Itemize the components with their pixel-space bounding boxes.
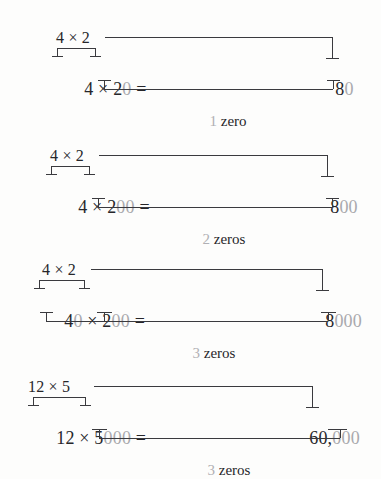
pair-bracket-left-tick-3 xyxy=(39,280,40,288)
caption-word-2: zeros xyxy=(214,231,246,247)
pair-bracket-base-2 xyxy=(51,166,89,167)
zeros-bracket-right-tick-1 xyxy=(333,80,334,89)
zeros-bracket-right-foot-1 xyxy=(327,80,340,81)
caption-1: 1 zero xyxy=(187,99,247,144)
zeros-bracket-base-1 xyxy=(104,89,333,90)
top-expression-3: 4 × 2 xyxy=(42,262,76,278)
top-connector-foot-3 xyxy=(316,290,329,291)
caption-2: 2 zeros xyxy=(180,217,245,262)
caption-count-1: 1 xyxy=(210,113,218,129)
top-connector-foot-2 xyxy=(321,176,334,177)
zeros-bracket-left-tick-3 xyxy=(46,312,47,321)
pair-bracket-right-tick-3 xyxy=(84,280,85,288)
pair-bracket-left-foot-2 xyxy=(46,174,57,175)
caption-count-4: 3 xyxy=(208,462,216,478)
top-connector-drop-2 xyxy=(327,155,328,176)
top-connector-drop-3 xyxy=(322,269,323,290)
zeros-bracket-left-tick-4 xyxy=(99,429,100,438)
zeros-bracket-right-tick-3 xyxy=(328,312,329,321)
zeros-bracket-right-foot-3 xyxy=(321,312,336,313)
caption-4: 3 zeros xyxy=(185,448,250,479)
pair-bracket-base-1 xyxy=(57,48,95,49)
zeros-bracket-right-foot-2 xyxy=(326,198,339,199)
zeros-bracket-right-foot-4 xyxy=(328,429,347,430)
main-lead-4: 12 × 5 xyxy=(56,428,103,448)
zeros-bracket-mid-tick-3 xyxy=(104,312,105,321)
caption-count-2: 2 xyxy=(203,231,211,247)
top-connector-line-4 xyxy=(94,386,312,387)
zeros-bracket-left-foot-1 xyxy=(98,80,111,81)
top-expression-1: 4 × 2 xyxy=(56,30,90,46)
pair-bracket-right-foot-4 xyxy=(80,405,91,406)
zeros-bracket-base-2 xyxy=(98,207,332,208)
pair-bracket-right-tick-4 xyxy=(85,397,86,405)
pair-bracket-left-foot-3 xyxy=(34,288,45,289)
caption-word-3: zeros xyxy=(204,345,236,361)
pair-bracket-right-tick-1 xyxy=(95,48,96,56)
top-connector-drop-1 xyxy=(332,37,333,58)
pair-bracket-right-foot-3 xyxy=(79,288,90,289)
result-zeros-2: 00 xyxy=(339,197,357,217)
pair-bracket-base-4 xyxy=(33,397,85,398)
pair-bracket-right-foot-2 xyxy=(84,174,95,175)
top-connector-line-1 xyxy=(105,37,332,38)
pair-bracket-left-foot-4 xyxy=(28,405,39,406)
top-connector-line-3 xyxy=(91,269,322,270)
multiplication-zeros-figure: 4 × 2 4 × 20 = 80 1 zero 4 × 2 xyxy=(0,0,381,479)
pair-bracket-right-foot-1 xyxy=(90,56,101,57)
caption-word-1: zero xyxy=(221,113,247,129)
result-zeros-3: 000 xyxy=(334,311,362,331)
caption-3: 3 zeros xyxy=(170,331,235,376)
zeros-bracket-left-tick-1 xyxy=(104,80,105,89)
pair-bracket-left-foot-1 xyxy=(52,56,63,57)
zeros-bracket-left-foot-3 xyxy=(40,312,53,313)
top-expression-2: 4 × 2 xyxy=(50,148,84,164)
pair-bracket-left-tick-1 xyxy=(57,48,58,56)
caption-count-3: 3 xyxy=(193,345,201,361)
top-expression-4: 12 × 5 xyxy=(28,379,70,395)
zeros-bracket-base-4 xyxy=(99,438,340,439)
zeros-bracket-left-tick-2 xyxy=(98,198,99,207)
zeros-bracket-right-tick-2 xyxy=(332,198,333,207)
zeros-bracket-right-tick-4 xyxy=(340,429,341,438)
top-connector-foot-1 xyxy=(326,58,339,59)
pair-bracket-base-3 xyxy=(39,280,84,281)
zeros-bracket-left-foot-4 xyxy=(92,429,107,430)
zeros-bracket-left-foot-2 xyxy=(92,198,105,199)
caption-word-4: zeros xyxy=(219,462,251,478)
zeros-bracket-base-3 xyxy=(46,321,328,322)
top-connector-foot-4 xyxy=(306,407,319,408)
top-connector-drop-4 xyxy=(312,386,313,407)
pair-bracket-left-tick-2 xyxy=(51,166,52,174)
pair-bracket-right-tick-2 xyxy=(89,166,90,174)
zeros-bracket-mid-foot-3 xyxy=(97,312,112,313)
pair-bracket-left-tick-4 xyxy=(33,397,34,405)
top-connector-line-2 xyxy=(99,155,327,156)
result-zeros-1: 0 xyxy=(344,79,353,99)
